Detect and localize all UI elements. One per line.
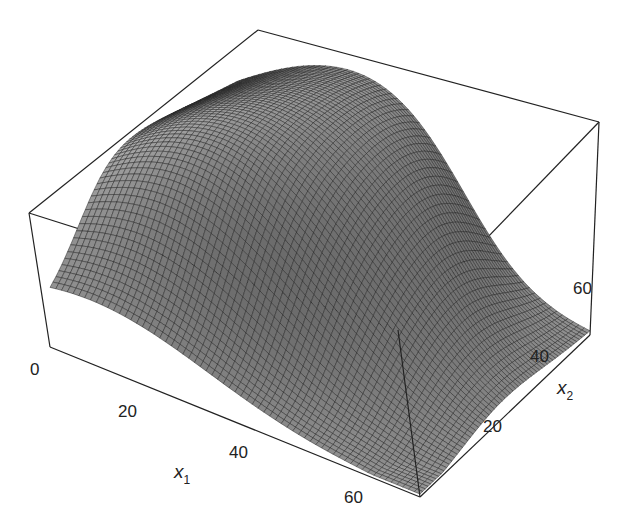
x1-tick-60: 60 bbox=[344, 488, 363, 507]
x1-tick-20: 20 bbox=[118, 402, 137, 421]
svg-text:x1: x1 bbox=[173, 461, 191, 487]
box-edge-vertical-left bbox=[29, 213, 50, 347]
svg-text:x2: x2 bbox=[556, 377, 574, 403]
x1-axis-label: x1 bbox=[173, 461, 191, 487]
box-edge-vertical-right bbox=[590, 122, 599, 335]
x2-tick-60: 60 bbox=[573, 279, 592, 298]
x2-axis-label: x2 bbox=[556, 377, 574, 403]
x2-tick-40: 40 bbox=[530, 347, 549, 366]
x2-tick-20: 20 bbox=[483, 417, 502, 436]
surface-plot: 0 20 40 60 20 40 60 x1 x2 bbox=[0, 0, 620, 527]
x1-tick-0: 0 bbox=[30, 360, 39, 379]
surface-mesh bbox=[50, 66, 590, 495]
x1-tick-40: 40 bbox=[229, 443, 248, 462]
